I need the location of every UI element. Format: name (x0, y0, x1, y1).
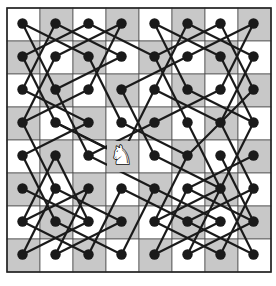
knight-icon: ♞ (107, 140, 138, 173)
chessboard: ♞ (0, 0, 276, 286)
visited-dot (17, 249, 27, 259)
visited-dot (17, 183, 27, 193)
visited-dot (50, 216, 60, 226)
visited-dot (83, 150, 93, 160)
visited-dot (248, 18, 258, 28)
visited-dot (248, 249, 258, 259)
visited-dot (215, 117, 225, 127)
visited-dot (215, 249, 225, 259)
visited-dot (149, 117, 159, 127)
visited-dot (116, 183, 126, 193)
visited-dot (116, 216, 126, 226)
visited-dot (215, 150, 225, 160)
visited-dot (182, 216, 192, 226)
visited-dot (248, 84, 258, 94)
visited-dot (83, 18, 93, 28)
visited-dot (248, 183, 258, 193)
visited-dot (149, 216, 159, 226)
visited-dot (17, 51, 27, 61)
visited-dot (248, 117, 258, 127)
visited-dot (17, 150, 27, 160)
knight-glyph: ♞ (110, 140, 133, 170)
visited-dot (116, 51, 126, 61)
visited-dot (149, 84, 159, 94)
visited-dot (215, 84, 225, 94)
visited-dot (182, 18, 192, 28)
visited-dot (50, 183, 60, 193)
visited-dot (50, 84, 60, 94)
visited-dot (215, 183, 225, 193)
visited-dot (116, 84, 126, 94)
visited-dot (149, 150, 159, 160)
visited-dot (17, 18, 27, 28)
visited-dot (83, 249, 93, 259)
visited-dot (83, 183, 93, 193)
visited-dot (182, 51, 192, 61)
visited-dot (149, 18, 159, 28)
visited-dot (116, 18, 126, 28)
visited-dot (182, 150, 192, 160)
visited-dot (116, 249, 126, 259)
visited-dot (182, 183, 192, 193)
visited-dot (83, 117, 93, 127)
visited-dot (17, 117, 27, 127)
visited-dot (83, 51, 93, 61)
visited-dot (83, 84, 93, 94)
visited-dot (182, 84, 192, 94)
visited-dot (248, 51, 258, 61)
visited-dot (50, 18, 60, 28)
visited-dot (50, 150, 60, 160)
visited-dot (149, 249, 159, 259)
visited-dot (17, 84, 27, 94)
visited-dot (116, 117, 126, 127)
visited-dot (215, 51, 225, 61)
visited-dot (149, 183, 159, 193)
visited-dot (50, 249, 60, 259)
visited-dot (83, 216, 93, 226)
visited-dot (248, 216, 258, 226)
visited-dot (182, 249, 192, 259)
visited-dot (215, 216, 225, 226)
visited-dot (215, 18, 225, 28)
knights-tour-diagram: ♞ (0, 0, 276, 286)
visited-dot (149, 51, 159, 61)
visited-dot (182, 117, 192, 127)
visited-dot (248, 150, 258, 160)
visited-dot (50, 117, 60, 127)
visited-dot (17, 216, 27, 226)
visited-dot (50, 51, 60, 61)
